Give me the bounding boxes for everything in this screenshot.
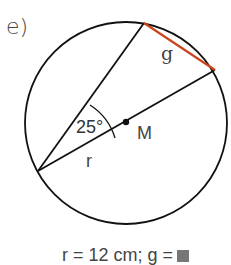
exercise-part-label: e) (6, 16, 28, 38)
given-text: r = 12 cm; g = (62, 245, 173, 265)
chord-g-highlight (144, 23, 215, 70)
unknown-blank-icon (177, 250, 189, 262)
center-point-m (123, 119, 129, 125)
radius-label: r (86, 152, 92, 170)
center-label: M (137, 124, 152, 142)
angle-label: 25° (76, 118, 103, 136)
chord-line (38, 23, 144, 171)
given-values: r = 12 cm; g = (62, 246, 189, 264)
chord-label: g (161, 44, 173, 63)
